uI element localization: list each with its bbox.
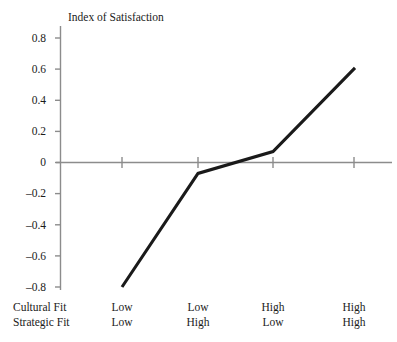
x-category-group: Low Low — [79, 300, 165, 330]
y-tick-label: 0.2 — [4, 125, 46, 137]
x-category-strategic: High — [311, 315, 397, 330]
x-category-group: High High — [311, 300, 397, 330]
y-tick-label: 0.8 — [4, 32, 46, 44]
y-tick-label: 0 — [4, 156, 46, 168]
x-category-strategic: High — [155, 315, 241, 330]
x-category-group: Low High — [155, 300, 241, 330]
x-category-cultural: Low — [155, 300, 241, 315]
y-tick-label: 0.4 — [4, 94, 46, 106]
x-category-cultural: High — [311, 300, 397, 315]
x-category-strategic: Low — [79, 315, 165, 330]
x-category-group: High Low — [230, 300, 316, 330]
x-category-cultural: High — [230, 300, 316, 315]
row-label-strategic-fit: Strategic Fit — [13, 315, 70, 330]
chart-plot-area — [0, 0, 397, 342]
data-series-line — [122, 68, 355, 287]
category-row-labels: Cultural Fit Strategic Fit — [13, 300, 70, 330]
y-tick-label: –0.6 — [4, 250, 46, 262]
x-category-cultural: Low — [79, 300, 165, 315]
chart-container: Index of Satisfaction 0.8 0.6 — [0, 0, 397, 342]
row-label-cultural-fit: Cultural Fit — [13, 300, 70, 315]
y-tick-label: 0.6 — [4, 63, 46, 75]
y-tick-label: –0.4 — [4, 219, 46, 231]
y-tick-label: –0.2 — [4, 187, 46, 199]
y-tick-label: –0.8 — [4, 281, 46, 293]
x-category-strategic: Low — [230, 315, 316, 330]
